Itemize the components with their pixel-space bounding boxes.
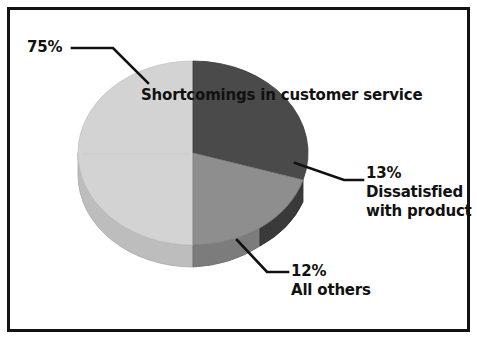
pie-label-all-others-line1: All others xyxy=(291,281,371,300)
pie-label-shortcomings: Shortcomings in customer service xyxy=(141,86,422,104)
pie-label-75-percent: 75% xyxy=(27,38,62,56)
pie-label-12-percent: 12% xyxy=(291,262,371,281)
pie-label-dissatisfied-group: 13% Dissatisfied with product xyxy=(366,164,472,221)
pie-label-13-percent: 13% xyxy=(366,164,472,183)
figure-page: 75% Shortcomings in customer service 13%… xyxy=(0,0,477,343)
pie-label-all-others-group: 12% All others xyxy=(291,262,371,300)
pie-label-dissatisfied-line1: Dissatisfied xyxy=(366,183,472,202)
pie-label-dissatisfied-line2: with product xyxy=(366,202,472,221)
